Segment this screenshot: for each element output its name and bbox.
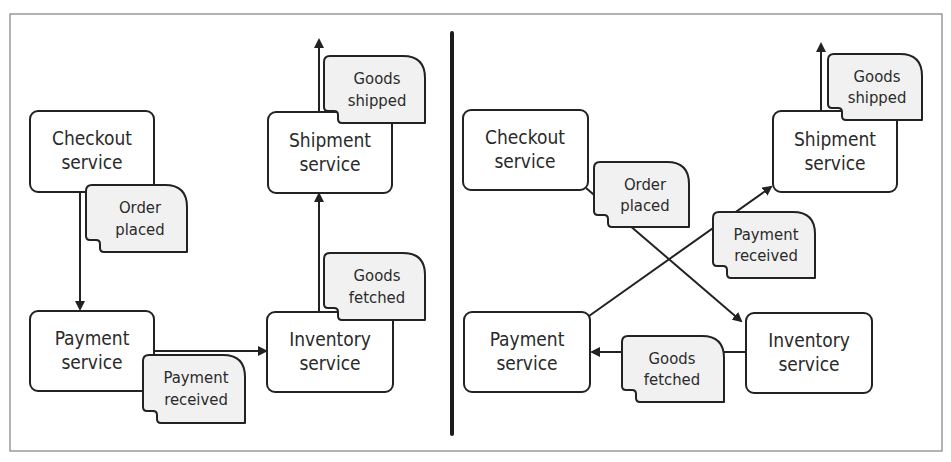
service-inventory: Inventory service <box>746 313 872 393</box>
event-goods-fetched: Goods fetched <box>324 253 425 320</box>
service-payment: Payment service <box>464 312 590 392</box>
left-panel: Checkout service Shipment service Paymen… <box>30 40 425 423</box>
service-label: Checkout <box>485 126 565 148</box>
service-label: Checkout <box>52 127 132 149</box>
service-label: service <box>804 152 865 174</box>
service-label: Payment <box>490 328 565 350</box>
event-label: Goods <box>854 67 901 86</box>
event-label: Payment <box>164 368 229 387</box>
event-order-placed: Order placed <box>594 162 689 227</box>
event-order-placed: Order placed <box>86 185 187 252</box>
service-label: service <box>778 353 839 375</box>
event-label: Goods <box>649 349 696 368</box>
service-label: Inventory <box>289 328 371 350</box>
service-checkout: Checkout service <box>463 110 588 190</box>
event-label: Order <box>119 198 162 217</box>
event-label: shipped <box>848 88 907 107</box>
service-label: service <box>61 151 122 173</box>
service-checkout: Checkout service <box>30 111 154 192</box>
event-goods-shipped: Goods shipped <box>324 56 425 123</box>
event-label: received <box>734 246 798 265</box>
event-label: received <box>164 390 228 409</box>
event-label: Order <box>624 175 667 194</box>
service-label: Payment <box>55 327 130 349</box>
event-label: Goods <box>354 266 401 285</box>
event-label: fetched <box>349 288 405 307</box>
event-goods-shipped: Goods shipped <box>828 54 922 120</box>
service-label: service <box>299 153 360 175</box>
service-label: Inventory <box>768 329 850 351</box>
service-label: service <box>61 351 122 373</box>
service-label: service <box>494 150 555 172</box>
event-label: placed <box>620 196 669 215</box>
service-payment: Payment service <box>30 311 154 391</box>
event-payment-received: Payment received <box>713 212 815 278</box>
event-label: shipped <box>348 91 407 110</box>
event-label: Goods <box>354 69 401 88</box>
service-label: Shipment <box>289 129 371 151</box>
service-label: service <box>496 352 557 374</box>
service-shipment: Shipment service <box>268 112 392 193</box>
event-label: fetched <box>644 370 700 389</box>
service-label: service <box>299 352 360 374</box>
service-label: Shipment <box>794 128 876 150</box>
event-label: Payment <box>734 225 799 244</box>
event-label: placed <box>115 220 164 239</box>
diagram-canvas: Checkout service Shipment service Paymen… <box>0 0 951 462</box>
service-shipment: Shipment service <box>773 111 897 192</box>
event-payment-received: Payment received <box>143 355 245 423</box>
service-inventory: Inventory service <box>267 312 393 392</box>
event-goods-fetched: Goods fetched <box>622 336 724 402</box>
right-panel: Checkout service Shipment service Paymen… <box>463 44 922 402</box>
